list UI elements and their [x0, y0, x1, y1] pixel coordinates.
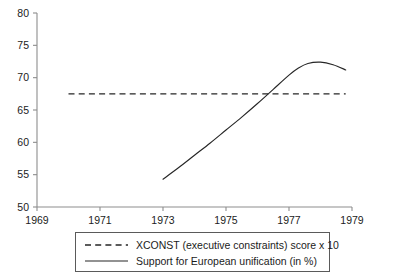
y-tick-label: 70	[17, 71, 29, 83]
legend: XCONST (executive constraints) score x 1…	[76, 233, 340, 272]
x-tick-label: 1969	[25, 214, 49, 226]
y-tick-label: 50	[17, 201, 29, 213]
chart-canvas: 50556065707580 196919711973197519771979 …	[0, 0, 395, 280]
x-tick-label: 1971	[88, 214, 112, 226]
x-axis: 196919711973197519771979	[25, 207, 364, 226]
series-support-line	[163, 62, 346, 179]
x-tick-label: 1979	[340, 214, 364, 226]
legend-label-0: XCONST (executive constraints) score x 1…	[136, 239, 339, 251]
y-axis: 50556065707580	[17, 7, 37, 213]
y-tick-group: 50556065707580	[17, 7, 37, 213]
x-tick-group: 196919711973197519771979	[25, 207, 364, 226]
y-tick-label: 75	[17, 39, 29, 51]
legend-label-1: Support for European unification (in %)	[136, 255, 317, 267]
y-tick-label: 80	[17, 7, 29, 19]
y-tick-label: 60	[17, 136, 29, 148]
y-tick-label: 65	[17, 104, 29, 116]
x-tick-label: 1973	[151, 214, 175, 226]
y-tick-label: 55	[17, 168, 29, 180]
series-group	[69, 62, 346, 179]
chart-figure: 50556065707580 196919711973197519771979 …	[0, 0, 395, 280]
x-tick-label: 1975	[214, 214, 238, 226]
x-tick-label: 1977	[277, 214, 301, 226]
